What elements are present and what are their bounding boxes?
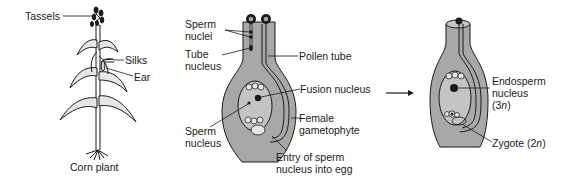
label-ear: Ear	[134, 71, 150, 83]
label-endosperm-nucleus: Endosperm nucleus (3n)	[492, 75, 546, 111]
ovule-pollination-illustration	[222, 14, 296, 162]
label-silks: Silks	[125, 54, 147, 66]
tassel-icon	[91, 7, 104, 27]
label-tube-nucleus: Tube nucleus	[185, 48, 221, 72]
right-arrow-icon	[386, 90, 414, 96]
zygote	[450, 112, 453, 115]
ovule-fertilized-illustration	[430, 18, 488, 148]
label-entry-of-sperm: Entry of sperm nucleus into egg	[276, 151, 352, 175]
label-sperm-nucleus: Sperm nucleus	[185, 125, 221, 149]
fusion-nucleus	[255, 95, 261, 101]
corn-plant-illustration	[60, 7, 136, 160]
label-tassels: Tassels	[25, 10, 60, 22]
label-female-gametophyte: Female gametophyte	[299, 112, 360, 136]
endosperm-nucleus	[450, 84, 458, 92]
label-sperm-nuclei: Sperm nuclei	[185, 18, 216, 42]
label-fusion-nucleus: Fusion nucleus	[300, 83, 371, 95]
label-zygote: Zygote (2n)	[492, 137, 546, 149]
label-pollen-tube: Pollen tube	[299, 50, 352, 62]
caption-corn-plant: Corn plant	[70, 161, 118, 173]
